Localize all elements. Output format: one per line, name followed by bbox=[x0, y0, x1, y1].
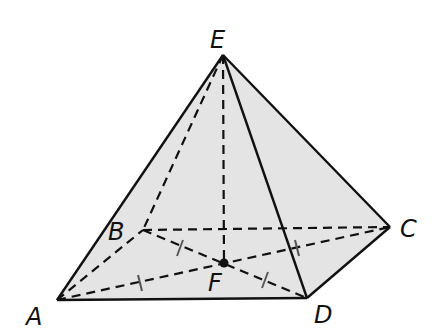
label-C: C bbox=[400, 215, 417, 243]
pyramid-diagram: E B C A D F bbox=[0, 0, 443, 335]
label-A: A bbox=[24, 303, 42, 331]
label-F: F bbox=[208, 269, 223, 297]
label-B: B bbox=[108, 218, 124, 246]
label-E: E bbox=[210, 26, 226, 54]
point-F bbox=[220, 259, 229, 268]
label-D: D bbox=[314, 301, 332, 329]
